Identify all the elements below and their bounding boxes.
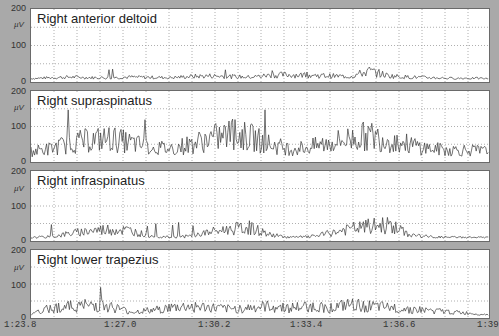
x-tick: 1:39 bbox=[477, 320, 499, 330]
x-tick: 1:30.2 bbox=[198, 320, 230, 330]
y-tick-100: 100 bbox=[0, 121, 26, 131]
panel-anterior-deltoid: Right anterior deltoid bbox=[30, 8, 490, 83]
x-tick: 1:33.4 bbox=[290, 320, 322, 330]
panel-title: Right infraspinatus bbox=[35, 173, 147, 188]
y-tick-0: 0 bbox=[0, 76, 26, 86]
panel-lower-trapezius: Right lower trapezius bbox=[30, 249, 490, 319]
x-tick: 1:23.8 bbox=[4, 320, 36, 330]
panel-title: Right lower trapezius bbox=[35, 252, 160, 267]
panel-title: Right supraspinatus bbox=[35, 93, 154, 108]
y-tick-200: 200 bbox=[0, 86, 26, 96]
panel-supraspinatus: Right supraspinatus bbox=[30, 90, 490, 163]
y-tick-100: 100 bbox=[0, 201, 26, 211]
y-unit: µV bbox=[14, 20, 24, 29]
y-unit: µV bbox=[14, 263, 24, 272]
panel-infraspinatus: Right infraspinatus bbox=[30, 170, 490, 242]
y-tick-100: 100 bbox=[0, 280, 26, 290]
y-unit: µV bbox=[14, 184, 24, 193]
emg-figure: Right anterior deltoid 200 µV 100 0 Righ… bbox=[0, 0, 499, 336]
y-tick-200: 200 bbox=[0, 166, 26, 176]
y-tick-200: 200 bbox=[0, 3, 26, 13]
panel-title: Right anterior deltoid bbox=[35, 11, 159, 26]
y-tick-0: 0 bbox=[0, 235, 26, 245]
x-tick: 1:27.0 bbox=[104, 320, 136, 330]
y-tick-0: 0 bbox=[0, 156, 26, 166]
y-tick-100: 100 bbox=[0, 40, 26, 50]
y-tick-200: 200 bbox=[0, 245, 26, 255]
x-tick: 1:36.6 bbox=[383, 320, 415, 330]
y-unit: µV bbox=[14, 103, 24, 112]
